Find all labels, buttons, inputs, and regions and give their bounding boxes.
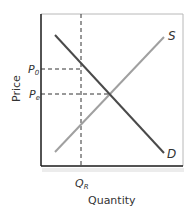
supply-label: S [168,29,176,43]
supply-demand-diagram: S D P0 Pe QR Quantity Price [0,0,192,212]
demand-label: D [167,147,176,161]
frame-shadow [42,168,184,172]
x-axis-title: Quantity [88,194,136,207]
y-axis-title: Price [10,75,23,102]
pe-label: Pe [29,88,40,102]
qr-label: QR [75,177,89,191]
p0-label: P0 [28,63,40,77]
